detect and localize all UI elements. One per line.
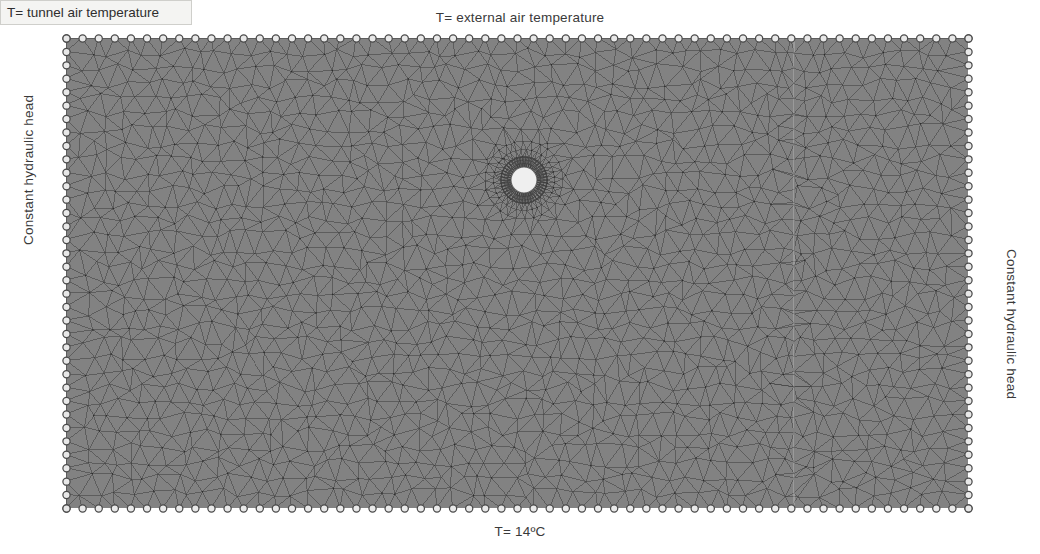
boundary-condition-circle-icon: [433, 34, 440, 41]
boundary-condition-circle-icon: [739, 504, 746, 511]
boundary-condition-circle-icon: [62, 142, 69, 149]
boundary-condition-circle-icon: [964, 48, 971, 55]
boundary-condition-circle-icon: [948, 504, 955, 511]
boundary-condition-circle-icon: [964, 397, 971, 404]
boundary-condition-circle-icon: [852, 34, 859, 41]
boundary-condition-circle-icon: [304, 504, 311, 511]
boundary-condition-circle-icon: [771, 504, 778, 511]
boundary-condition-circle-icon: [223, 504, 230, 511]
boundary-condition-circle-icon: [964, 61, 971, 68]
boundary-condition-circle-icon: [95, 34, 102, 41]
boundary-condition-circle-icon: [143, 504, 150, 511]
boundary-condition-circle-icon: [964, 34, 971, 41]
boundary-condition-circle-icon: [368, 504, 375, 511]
boundary-condition-circle-icon: [642, 34, 649, 41]
boundary-condition-circle-icon: [546, 504, 553, 511]
boundary-condition-circle-icon: [62, 357, 69, 364]
boundary-condition-circle-icon: [836, 34, 843, 41]
boundary-condition-circle-icon: [62, 330, 69, 337]
boundary-condition-circle-icon: [62, 424, 69, 431]
boundary-condition-circle-icon: [964, 464, 971, 471]
boundary-condition-circle-icon: [964, 88, 971, 95]
boundary-condition-circle-icon: [707, 34, 714, 41]
boundary-condition-circle-icon: [787, 34, 794, 41]
boundary-condition-circle-icon: [964, 370, 971, 377]
boundary-condition-circle-icon: [481, 34, 488, 41]
boundary-condition-circle-icon: [594, 504, 601, 511]
boundary-condition-circle-icon: [401, 34, 408, 41]
boundary-condition-circle-icon: [207, 504, 214, 511]
boundary-condition-circle-icon: [948, 34, 955, 41]
boundary-condition-circle-icon: [900, 504, 907, 511]
boundary-condition-circle-icon: [240, 504, 247, 511]
boundary-condition-circle-icon: [803, 34, 810, 41]
boundary-condition-circle-icon: [658, 504, 665, 511]
boundary-condition-circle-icon: [256, 34, 263, 41]
boundary-condition-circle-icon: [62, 34, 69, 41]
boundary-condition-circle-icon: [62, 464, 69, 471]
boundary-condition-circle-icon: [62, 169, 69, 176]
boundary-condition-circle-icon: [417, 504, 424, 511]
boundary-condition-circle-icon: [964, 102, 971, 109]
boundary-condition-circle-icon: [819, 504, 826, 511]
boundary-condition-circle-icon: [62, 370, 69, 377]
boundary-condition-circle-icon: [62, 343, 69, 350]
boundary-condition-circle-icon: [513, 34, 520, 41]
boundary-condition-circle-icon: [223, 34, 230, 41]
boundary-condition-circle-icon: [513, 504, 520, 511]
boundary-condition-circle-icon: [449, 34, 456, 41]
boundary-condition-circle-icon: [143, 34, 150, 41]
boundary-condition-circle-icon: [240, 34, 247, 41]
boundary-condition-circle-icon: [62, 155, 69, 162]
boundary-condition-circle-icon: [79, 34, 86, 41]
boundary-condition-circle-icon: [417, 34, 424, 41]
boundary-condition-circle-icon: [62, 290, 69, 297]
boundary-condition-circle-icon: [964, 290, 971, 297]
boundary-condition-circle-icon: [62, 128, 69, 135]
boundary-condition-circle-icon: [127, 34, 134, 41]
right-boundary-label: Constant hydraulic head: [1005, 249, 1019, 399]
boundary-condition-circle-icon: [691, 34, 698, 41]
boundary-condition-circle-icon: [62, 102, 69, 109]
boundary-condition-circle-icon: [62, 196, 69, 203]
top-boundary-label: T= external air temperature: [0, 11, 1040, 25]
boundary-condition-circle-icon: [401, 504, 408, 511]
finite-element-mesh: [66, 38, 968, 508]
boundary-condition-circle-icon: [836, 504, 843, 511]
boundary-condition-circle-icon: [803, 504, 810, 511]
boundary-condition-circle-icon: [530, 504, 537, 511]
boundary-condition-circle-icon: [610, 34, 617, 41]
boundary-condition-circle-icon: [256, 504, 263, 511]
boundary-condition-circle-icon: [610, 504, 617, 511]
boundary-condition-circle-icon: [62, 236, 69, 243]
boundary-condition-circle-icon: [900, 34, 907, 41]
boundary-condition-circle-icon: [626, 504, 633, 511]
boundary-condition-circle-icon: [578, 504, 585, 511]
left-boundary-label: Constant hydraulic head: [22, 95, 36, 245]
boundary-condition-circle-icon: [868, 504, 875, 511]
bottom-boundary-label: T= 14ºC: [0, 525, 1040, 539]
boundary-condition-circle-icon: [964, 222, 971, 229]
boundary-condition-circle-icon: [111, 504, 118, 511]
boundary-condition-circle-icon: [739, 34, 746, 41]
boundary-condition-circle-icon: [964, 75, 971, 82]
mesh-domain: [66, 38, 968, 508]
boundary-condition-circle-icon: [368, 34, 375, 41]
boundary-condition-circle-icon: [964, 303, 971, 310]
boundary-condition-circle-icon: [626, 34, 633, 41]
boundary-condition-circle-icon: [62, 410, 69, 417]
boundary-condition-circle-icon: [964, 343, 971, 350]
boundary-condition-circle-icon: [964, 276, 971, 283]
boundary-condition-circle-icon: [62, 75, 69, 82]
boundary-condition-circle-icon: [755, 34, 762, 41]
boundary-condition-circle-icon: [932, 34, 939, 41]
boundary-condition-circle-icon: [964, 182, 971, 189]
boundary-condition-circle-icon: [964, 504, 971, 511]
boundary-condition-circle-icon: [964, 249, 971, 256]
boundary-condition-circle-icon: [336, 504, 343, 511]
boundary-condition-circle-icon: [62, 303, 69, 310]
boundary-condition-circle-icon: [62, 115, 69, 122]
boundary-condition-circle-icon: [111, 34, 118, 41]
boundary-condition-circle-icon: [449, 504, 456, 511]
boundary-condition-circle-icon: [272, 34, 279, 41]
